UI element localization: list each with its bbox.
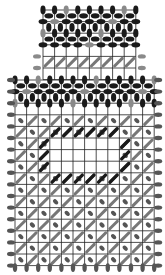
diagonal-stitch xyxy=(98,210,106,218)
tent-stitch xyxy=(52,198,59,205)
edge-stitch xyxy=(138,66,146,70)
edge-stitch xyxy=(154,113,162,117)
stitch-oval xyxy=(74,83,83,88)
tent-stitch xyxy=(145,175,152,182)
stitch-oval xyxy=(131,19,140,24)
tent-stitch xyxy=(17,233,24,240)
edge-stitch xyxy=(138,54,146,58)
hatch-stitch xyxy=(115,58,123,66)
diagonal-stitch xyxy=(29,186,37,194)
stitch-oval xyxy=(47,76,52,85)
edge-stitch xyxy=(7,252,15,256)
diagonal-stitch xyxy=(52,233,60,241)
stitch-oval xyxy=(81,23,86,32)
stitch-oval xyxy=(85,19,94,24)
stitch-oval xyxy=(44,13,53,18)
border-stitch xyxy=(87,129,94,136)
stitch-oval xyxy=(46,23,51,32)
diagonal-stitch xyxy=(29,163,37,171)
stitch-oval xyxy=(98,83,107,88)
edge-stitch xyxy=(7,159,15,163)
diagonal-stitch xyxy=(17,152,25,160)
stitch-oval xyxy=(50,19,59,24)
hatch-stitch xyxy=(103,58,111,66)
stitch-oval xyxy=(138,89,147,94)
edge-stitch xyxy=(48,263,52,272)
tent-stitch xyxy=(110,233,117,240)
stitch-oval xyxy=(73,19,82,24)
tent-stitch xyxy=(29,221,36,228)
tent-stitch xyxy=(87,187,94,194)
bottom-grid xyxy=(15,80,154,266)
tent-stitch xyxy=(145,152,152,159)
tent-stitch xyxy=(122,245,129,252)
stitch-oval xyxy=(109,83,118,88)
stitch-oval xyxy=(24,76,29,85)
diagonal-stitch xyxy=(63,221,71,229)
stitch-oval xyxy=(94,99,99,108)
stitch-oval xyxy=(44,36,53,41)
tent-stitch xyxy=(17,187,24,194)
stitch-oval xyxy=(65,93,70,102)
diagonal-stitch xyxy=(87,244,95,252)
stitch-oval xyxy=(75,29,80,38)
diagonal-stitch xyxy=(98,233,106,241)
stitch-oval xyxy=(98,6,103,15)
stitch-oval xyxy=(115,89,124,94)
stitch-oval xyxy=(18,93,23,102)
hatch-stitch xyxy=(91,58,99,66)
diagonal-stitch xyxy=(29,210,37,218)
tent-stitch xyxy=(98,221,105,228)
stitch-oval xyxy=(102,13,111,18)
diagonal-stitch xyxy=(29,256,37,264)
tent-stitch xyxy=(64,187,71,194)
tent-stitch xyxy=(52,221,59,228)
stitch-oval xyxy=(87,29,92,38)
tent-stitch xyxy=(87,117,94,124)
hatch-stitch xyxy=(57,58,65,66)
stitch-oval xyxy=(79,36,88,41)
diagonal-stitch xyxy=(75,256,83,264)
stitch-oval xyxy=(108,19,117,24)
stitch-oval xyxy=(122,29,127,38)
edge-stitch xyxy=(24,263,28,272)
stitch-oval xyxy=(98,29,103,38)
stitch-oval xyxy=(22,89,31,94)
stitch-oval xyxy=(73,42,82,47)
diagonal-stitch xyxy=(98,186,106,194)
edge-stitch xyxy=(59,263,63,272)
stitch-oval xyxy=(45,89,54,94)
stitch-oval xyxy=(116,23,121,32)
diagonal-stitch xyxy=(40,175,48,183)
tent-stitch xyxy=(122,129,129,136)
stitch-oval xyxy=(82,99,87,108)
tent-stitch xyxy=(40,187,47,194)
border-stitch xyxy=(75,129,82,136)
stitch-oval xyxy=(47,99,52,108)
tent-stitch xyxy=(29,152,36,159)
stitch-oval xyxy=(91,13,100,18)
diagonal-stitch xyxy=(29,233,37,241)
hatch-stitch xyxy=(126,58,134,66)
diagonal-stitch xyxy=(133,128,141,136)
stitch-oval xyxy=(128,76,133,85)
tent-stitch xyxy=(145,221,152,228)
stitch-oval xyxy=(110,29,115,38)
stitch-oval xyxy=(52,29,57,38)
stitch-oval xyxy=(64,29,69,38)
stitch-oval xyxy=(120,19,129,24)
diagonal-stitch xyxy=(133,175,141,183)
edge-stitch xyxy=(154,159,162,163)
tent-stitch xyxy=(40,117,47,124)
stitch-oval xyxy=(108,42,117,47)
border-stitch xyxy=(64,129,71,136)
stitch-oval xyxy=(131,42,140,47)
edge-stitch xyxy=(7,240,15,244)
tent-stitch xyxy=(52,245,59,252)
tent-stitch xyxy=(122,175,129,182)
edge-stitch xyxy=(106,263,110,272)
diagonal-stitch xyxy=(40,244,48,252)
stitch-oval xyxy=(59,76,64,85)
tent-stitch xyxy=(64,117,71,124)
tent-stitch xyxy=(133,140,140,147)
